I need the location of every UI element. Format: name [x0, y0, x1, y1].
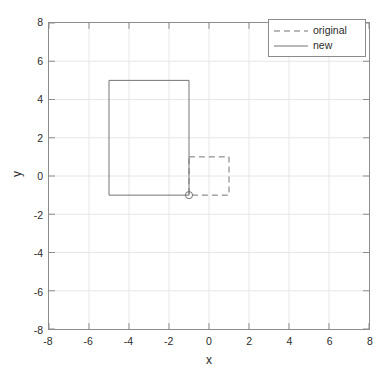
legend: original new	[268, 19, 366, 57]
x-tick-label: -8	[43, 336, 52, 347]
x-tick-label: -6	[84, 336, 93, 347]
x-axis-tick-labels: -8-6-4-202468	[48, 336, 370, 350]
x-tick-label: 8	[367, 336, 373, 347]
series-original	[189, 157, 229, 195]
series-new	[109, 80, 189, 195]
y-tick-label: 0	[37, 171, 43, 182]
y-tick-label: -6	[34, 286, 43, 297]
y-tick-label: 4	[37, 94, 43, 105]
data-series-layer	[49, 23, 369, 329]
x-tick-label: 6	[327, 336, 333, 347]
legend-label-original: original	[313, 25, 347, 36]
y-tick-label: -2	[34, 209, 43, 220]
x-tick-label: 0	[206, 336, 212, 347]
legend-swatch-solid	[274, 41, 308, 51]
legend-swatch-dashed	[274, 26, 308, 36]
y-tick-label: -4	[34, 248, 43, 259]
y-tick-label: 6	[37, 55, 43, 66]
x-tick-label: 2	[246, 336, 252, 347]
x-tick-label: 4	[287, 336, 293, 347]
x-axis-label: x	[48, 354, 370, 366]
x-tick-label: -4	[124, 336, 133, 347]
legend-item-original: original	[274, 23, 360, 38]
y-axis-label: y	[11, 144, 23, 204]
plot-area	[48, 22, 370, 330]
y-tick-label: 2	[37, 132, 43, 143]
legend-label-new: new	[313, 40, 332, 51]
legend-item-new: new	[274, 38, 360, 53]
x-tick-label: -2	[164, 336, 173, 347]
y-tick-label: 8	[37, 17, 43, 28]
figure-canvas: 86420-2-4-6-8 -8-6-4-202468 x y original…	[0, 0, 387, 386]
y-tick-label: -8	[34, 325, 43, 336]
